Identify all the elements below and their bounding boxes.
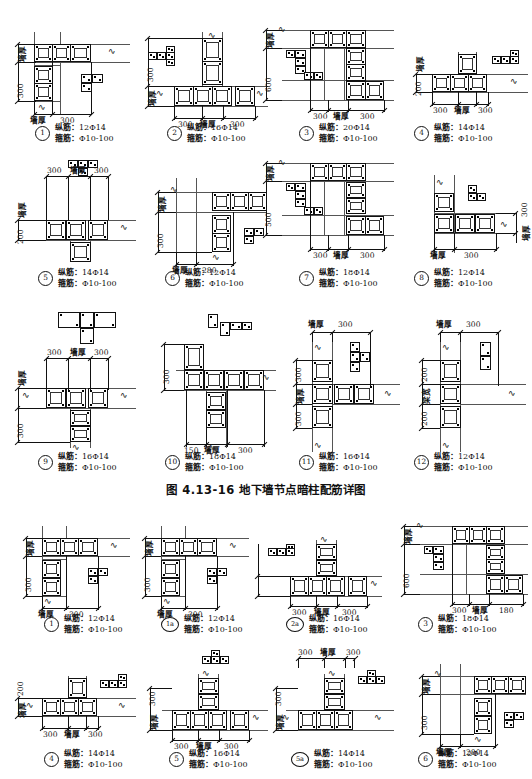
stirrup-label: 箍筋： — [319, 463, 343, 472]
dim-200-lower: 200 — [420, 412, 429, 427]
stirrup-value: Φ10-100 — [462, 625, 497, 634]
longitudinal-label: 纵筋： — [309, 614, 333, 623]
stirrup-label: 箍筋： — [58, 463, 82, 472]
dim-300-left: 300 — [313, 251, 328, 260]
dim-wall-thickness-h: 墙厚 — [320, 648, 336, 657]
dim-wall-thickness-h: 墙厚 — [436, 320, 452, 329]
dim-300-vertical: 300 — [156, 234, 165, 249]
stirrup-value: Φ10-100 — [79, 134, 114, 143]
longitudinal-label: 纵筋： — [434, 123, 458, 132]
dim-wall-thickness: 墙厚 — [143, 540, 154, 556]
dim-300-left: 300 — [313, 112, 328, 121]
detail-tag-10: 10 — [165, 455, 180, 470]
stirrup-value: Φ10-100 — [458, 463, 493, 472]
dim-300-right: 300 — [360, 251, 375, 260]
dim-300-vertical: 300 — [143, 578, 152, 593]
stirrup-label: 箍筋： — [64, 625, 88, 634]
detail-tag-11: 11 — [299, 455, 314, 470]
stirrup-value: Φ10-100 — [82, 279, 117, 288]
longitudinal-value: 16Φ14 — [82, 452, 109, 461]
stirrup-value: Φ10-100 — [213, 760, 248, 769]
longitudinal-value: 12Φ14 — [462, 749, 489, 758]
stirrup-label: 箍筋： — [58, 279, 82, 288]
detail-lower-tag-6: 6 — [418, 752, 433, 767]
detail-lower-5-spec: 纵筋：16Φ14 箍筋：Φ10-100 — [189, 749, 248, 770]
dim-wall-thickness-h: 墙厚 — [30, 116, 46, 125]
detail-1-spec: 纵筋：12Φ14 箍筋：Φ10-100 — [55, 123, 114, 144]
longitudinal-value: 12Φ14 — [88, 614, 115, 623]
stirrup-label: 箍筋： — [187, 134, 211, 143]
stirrup-label: 箍筋： — [55, 134, 79, 143]
longitudinal-label: 纵筋： — [319, 452, 343, 461]
stirrup-value: Φ10-100 — [458, 134, 493, 143]
detail-4-spec: 纵筋：14Φ14 箍筋：Φ10-100 — [434, 123, 493, 144]
dim-300-right: 300 — [346, 648, 361, 657]
dim-wall-thickness: 墙厚 — [274, 714, 285, 730]
longitudinal-value: 14Φ14 — [88, 749, 115, 758]
dim-300-vertical: 300 — [16, 424, 25, 439]
dim-300-right: 300 — [478, 106, 493, 115]
longitudinal-label: 纵筋： — [55, 123, 79, 132]
detail-12-drawing: ∿ ∿ ∿ 墙厚 300 200 梁宽 200 — [406, 312, 528, 452]
dim-300-right: 300 — [94, 348, 109, 357]
dim-300-right: 300 — [360, 112, 375, 121]
detail-tag-1: 1 — [35, 126, 50, 141]
stirrup-label: 箍筋： — [434, 279, 458, 288]
dim-300-right: 300 — [94, 166, 109, 175]
detail-lower-1a-drawing: ∿ ∿ 墙厚 300 墙厚 300 — [133, 518, 253, 613]
longitudinal-value: 14Φ14 — [82, 268, 109, 277]
detail-9-spec: 纵筋：16Φ14 箍筋：Φ10-100 — [58, 452, 117, 473]
stirrup-value: Φ10-100 — [209, 279, 244, 288]
dim-300-right: 300 — [88, 730, 103, 739]
detail-tag-6: 6 — [165, 271, 180, 286]
dim-wall-thickness: 墙厚 — [24, 540, 35, 556]
dim-300-left: 300 — [433, 106, 448, 115]
detail-4-drawing: ∿ 墙厚 200 300 墙厚 300 — [408, 28, 528, 118]
longitudinal-value: 16Φ14 — [211, 123, 238, 132]
detail-lower-tag-3: 3 — [418, 617, 433, 632]
detail-2-drawing: ∿ ∿ ∿ 300 墙厚 300 墙厚 300 — [140, 18, 265, 118]
detail-lower-1a-spec: 纵筋：12Φ14 箍筋：Φ10-100 — [184, 614, 243, 635]
detail-lower-tag-5a: 5a — [291, 752, 309, 767]
dim-300-vertical: 300 — [162, 370, 171, 385]
detail-5-drawing: ∿ 300 墙厚 300 墙厚 200 — [8, 158, 133, 263]
dim-wall-thickness-h: 墙厚 — [308, 320, 324, 329]
detail-tag-7: 7 — [299, 271, 314, 286]
detail-lower-5a-spec: 纵筋：14Φ14 箍筋：Φ10-100 — [314, 749, 373, 770]
longitudinal-label: 纵筋： — [184, 614, 208, 623]
detail-lower-2a-drawing: ∿ ∿ 300 墙厚 300 — [262, 518, 387, 613]
longitudinal-value: 18Φ14 — [343, 268, 370, 277]
detail-lower-4-drawing: ∿ ∿ 墙厚 200 300 墙厚 300 — [8, 658, 136, 748]
detail-7-spec: 纵筋：18Φ14 箍筋：Φ10-100 — [319, 268, 378, 289]
detail-tag-5: 5 — [38, 271, 53, 286]
longitudinal-value: 16Φ14 — [333, 614, 360, 623]
longitudinal-label: 纵筋： — [319, 123, 343, 132]
longitudinal-label: 纵筋： — [64, 749, 88, 758]
dim-500-vertical: 500 — [264, 213, 273, 228]
figure-caption: 图 4.13-16 地下墙节点暗柱配筋详图 — [0, 481, 532, 497]
detail-tag-8: 8 — [414, 271, 429, 286]
longitudinal-label: 纵筋： — [58, 452, 82, 461]
dim-200-vertical: 200 — [414, 82, 423, 97]
longitudinal-value: 14Φ14 — [458, 123, 485, 132]
longitudinal-label: 纵筋： — [438, 614, 462, 623]
stirrup-value: Φ10-100 — [208, 625, 243, 634]
stirrup-label: 箍筋： — [185, 463, 209, 472]
longitudinal-label: 纵筋： — [185, 268, 209, 277]
detail-7-drawing: ∿ 墙厚 500 300 墙厚 300 — [272, 155, 400, 263]
longitudinal-label: 纵筋： — [434, 452, 458, 461]
detail-lower-1-spec: 纵筋：12Φ14 箍筋：Φ10-100 — [64, 614, 123, 635]
dim-wall-thickness: 墙厚 — [414, 56, 425, 72]
stirrup-value: Φ10-100 — [209, 463, 244, 472]
stirrup-label: 箍筋： — [438, 625, 462, 634]
drawing-sheet: ∿ ∿ 墙厚 300 墙厚 300 1 纵筋：12Φ14 箍筋：Φ10-100 — [0, 0, 532, 779]
dim-wall-thickness-h: 墙厚 — [64, 730, 80, 739]
detail-lower-4-spec: 纵筋：14Φ14 箍筋：Φ10-100 — [64, 749, 123, 770]
detail-tag-4: 4 — [414, 126, 429, 141]
longitudinal-label: 纵筋： — [319, 268, 343, 277]
stirrup-label: 箍筋： — [319, 134, 343, 143]
dim-wall-thickness-h: 墙厚 — [70, 166, 86, 175]
dim-wall-thickness: 墙厚 — [156, 196, 167, 212]
dim-300-left: 300 — [47, 166, 62, 175]
longitudinal-value: 12Φ14 — [458, 268, 485, 277]
